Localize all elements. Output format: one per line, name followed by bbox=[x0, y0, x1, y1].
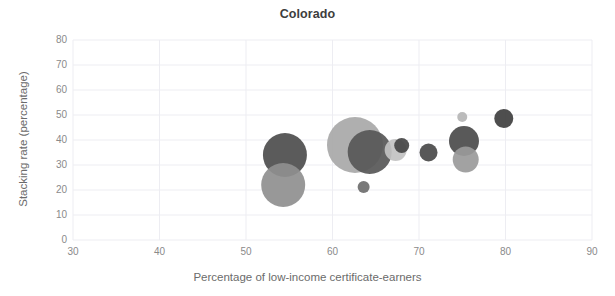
bubble-chart: Colorado 01020304050607080 3040506070809… bbox=[0, 0, 615, 296]
plot-area bbox=[73, 40, 592, 240]
x-axis-tick-labels: 30405060708090 bbox=[0, 247, 615, 263]
y-tick-label: 70 bbox=[33, 60, 67, 70]
x-tick-label: 70 bbox=[399, 247, 439, 257]
data-bubble[interactable] bbox=[420, 144, 438, 162]
data-bubble[interactable] bbox=[457, 112, 467, 122]
x-tick-label: 90 bbox=[572, 247, 612, 257]
y-tick-label: 40 bbox=[33, 135, 67, 145]
x-tick-label: 60 bbox=[313, 247, 353, 257]
plot-canvas bbox=[73, 40, 592, 240]
y-axis-title: Stacking rate (percentage) bbox=[17, 39, 29, 239]
y-tick-label: 50 bbox=[33, 110, 67, 120]
y-tick-label: 10 bbox=[33, 210, 67, 220]
x-tick-label: 50 bbox=[226, 247, 266, 257]
x-tick-label: 30 bbox=[53, 247, 93, 257]
data-bubble[interactable] bbox=[261, 163, 305, 207]
x-tick-label: 80 bbox=[486, 247, 526, 257]
data-bubble[interactable] bbox=[394, 138, 409, 153]
y-tick-label: 80 bbox=[33, 35, 67, 45]
y-tick-label: 60 bbox=[33, 85, 67, 95]
x-tick-label: 40 bbox=[140, 247, 180, 257]
data-bubble[interactable] bbox=[453, 147, 479, 173]
data-bubble[interactable] bbox=[358, 181, 370, 193]
y-tick-label: 20 bbox=[33, 185, 67, 195]
x-axis-title: Percentage of low-income certificate-ear… bbox=[0, 271, 615, 283]
y-tick-label: 0 bbox=[33, 235, 67, 245]
data-bubble[interactable] bbox=[494, 109, 513, 128]
y-tick-label: 30 bbox=[33, 160, 67, 170]
chart-title: Colorado bbox=[0, 7, 615, 21]
